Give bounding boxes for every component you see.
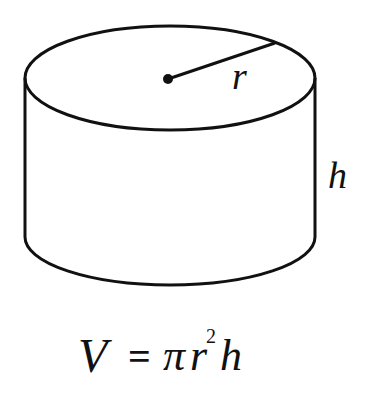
radius-line: [168, 43, 275, 79]
cylinder-volume-diagram: r h V = π r 2 h: [0, 0, 370, 407]
cylinder-bottom-arc: [25, 237, 315, 285]
height-label: h: [328, 154, 347, 196]
formula-exponent: 2: [206, 325, 216, 347]
formula-volume: V: [78, 329, 112, 382]
formula-pi: π: [163, 331, 187, 380]
formula-equals: =: [128, 334, 151, 379]
volume-formula: V = π r 2 h: [78, 325, 242, 382]
formula-height: h: [220, 331, 242, 380]
cylinder: [25, 26, 315, 285]
radius-label: r: [232, 55, 247, 97]
center-point: [163, 74, 173, 84]
